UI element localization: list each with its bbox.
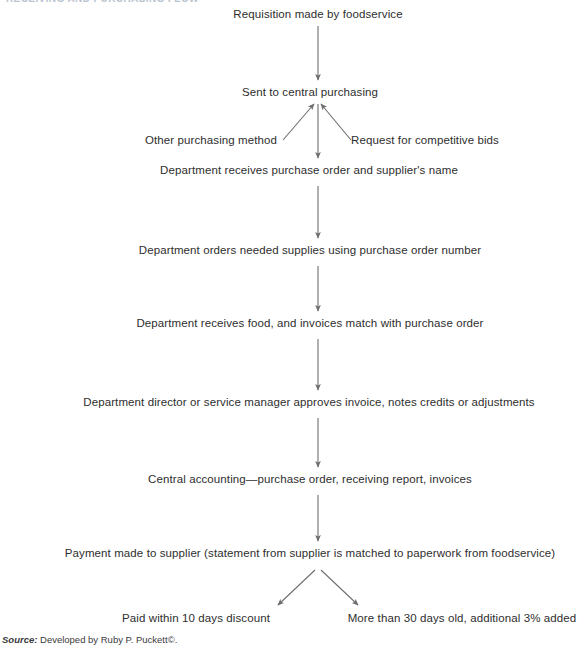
node-director-approves-invoice: Department director or service manager a… [83, 395, 534, 409]
node-request-for-competitive-bids: Request for competitive bids [351, 133, 499, 147]
node-other-purchasing-method: Other purchasing method [145, 133, 277, 147]
node-sent-to-central-purchasing: Sent to central purchasing [242, 85, 378, 99]
edge-other-method-to-central-purchasing [283, 104, 314, 140]
source-caption: Source: Developed by Ruby P. Puckett©. [2, 634, 177, 645]
flowchart-figure: RECEIVING AND PURCHASING FLOW Requis [0, 0, 580, 652]
clipped-section-heading: RECEIVING AND PURCHASING FLOW [6, 0, 199, 4]
node-requisition-made-by-foodservice: Requisition made by foodservice [233, 7, 402, 21]
node-department-receives-food-invoices-match: Department receives food, and invoices m… [136, 316, 483, 330]
source-label: Source: [2, 634, 37, 645]
node-department-receives-purchase-order: Department receives purchase order and s… [160, 163, 458, 177]
node-paid-within-10-days-discount: Paid within 10 days discount [122, 611, 270, 625]
node-department-orders-needed-supplies: Department orders needed supplies using … [139, 243, 481, 257]
node-central-accounting: Central accounting—purchase order, recei… [148, 472, 472, 486]
edge-payment-to-more-than-30-days [321, 570, 358, 605]
edge-payment-to-paid-within-10-days [278, 570, 315, 605]
source-text: Developed by Ruby P. Puckett©. [40, 634, 177, 645]
node-more-than-30-days-old: More than 30 days old, additional 3% add… [348, 611, 577, 625]
edge-competitive-bids-to-central-purchasing [321, 104, 351, 140]
node-payment-made-to-supplier: Payment made to supplier (statement from… [65, 546, 555, 560]
